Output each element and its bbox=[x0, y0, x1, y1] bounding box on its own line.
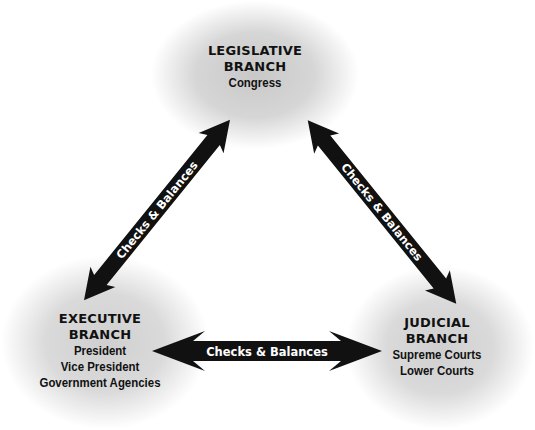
arrow-label-left: Checks & Balances bbox=[113, 158, 201, 261]
executive-member-president: President bbox=[38, 343, 161, 359]
arrow-executive-legislative: Checks & Balances bbox=[72, 110, 243, 310]
judicial-title-line-2: BRANCH bbox=[377, 331, 497, 347]
legislative-member-congress: Congress bbox=[193, 75, 316, 91]
executive-title-line-1: EXECUTIVE bbox=[30, 311, 170, 327]
judicial-member-lower-courts: Lower Courts bbox=[384, 363, 490, 379]
executive-member-vice-president: Vice President bbox=[38, 359, 161, 375]
arrow-executive-judicial: Checks & Balances bbox=[152, 331, 382, 371]
executive-title-line-2: BRANCH bbox=[30, 327, 170, 343]
judicial-branch-node: JUDICIAL BRANCH Supreme Courts Lower Cou… bbox=[377, 315, 497, 379]
executive-branch-node: EXECUTIVE BRANCH President Vice Presiden… bbox=[30, 311, 170, 391]
legislative-branch-node: LEGISLATIVE BRANCH Congress bbox=[185, 43, 325, 91]
executive-member-government-agencies: Government Agencies bbox=[38, 375, 161, 391]
judicial-title-line-1: JUDICIAL bbox=[377, 315, 497, 331]
legislative-title-line-2: BRANCH bbox=[185, 59, 325, 75]
arrow-label-right: Checks & Balances bbox=[338, 160, 426, 263]
legislative-title-line-1: LEGISLATIVE bbox=[185, 43, 325, 59]
arrow-label-bottom: Checks & Balances bbox=[206, 345, 328, 359]
judicial-member-supreme-courts: Supreme Courts bbox=[384, 347, 490, 363]
arrow-legislative-judicial: Checks & Balances bbox=[295, 110, 468, 314]
